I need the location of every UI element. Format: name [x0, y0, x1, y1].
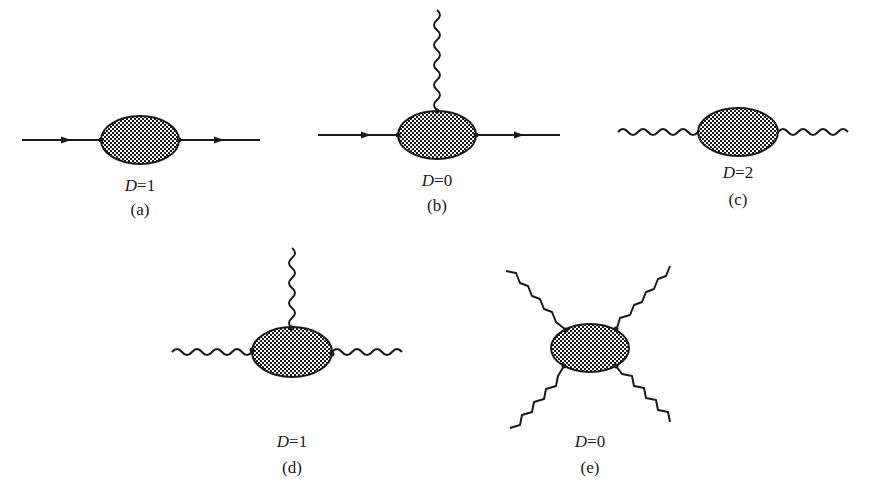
d-label-c: D=2 [723, 163, 753, 183]
photon-line-upper-right [617, 266, 670, 328]
diagram-e-four-photon [506, 266, 670, 428]
photon-line-right [332, 349, 402, 355]
d-label-a: D=1 [125, 176, 155, 196]
photon-line-up [289, 248, 295, 328]
caption-a: (a) [131, 200, 150, 220]
blob-vertex [398, 111, 476, 159]
feynman-diagrams-figure [0, 0, 874, 502]
photon-line-upper-left [506, 271, 566, 330]
photon-line-up [434, 10, 440, 110]
caption-d: (d) [282, 458, 302, 478]
photon-line-left [618, 129, 698, 135]
blob-vertex [698, 108, 778, 156]
photon-line-lower-right [616, 366, 670, 422]
blob-vertex [101, 116, 179, 164]
diagram-a-electron-self-energy [22, 116, 260, 164]
photon-line-right [778, 129, 848, 135]
d-label-e: D=0 [575, 432, 605, 452]
d-label-d: D=1 [277, 432, 307, 452]
photon-line-lower-left [510, 366, 564, 428]
d-label-b: D=0 [422, 171, 452, 191]
diagram-b-vertex-function [318, 10, 560, 159]
caption-e: (e) [581, 458, 600, 478]
caption-c: (c) [729, 190, 748, 210]
blob-vertex [252, 327, 332, 377]
diagram-d-three-photon [172, 248, 402, 377]
diagram-c-photon-self-energy [618, 108, 848, 156]
caption-b: (b) [427, 196, 447, 216]
photon-line-left [172, 349, 252, 355]
